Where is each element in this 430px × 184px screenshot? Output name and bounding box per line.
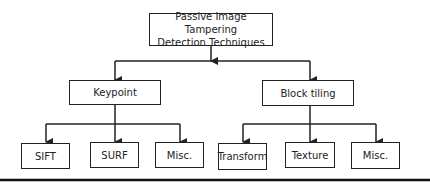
transform-node: Transform bbox=[218, 143, 267, 170]
root-label-line1: Passive Image Tampering bbox=[150, 10, 272, 36]
keypoint-label: Keypoint bbox=[93, 86, 137, 99]
root-node: Passive Image Tampering Detection Techni… bbox=[149, 13, 273, 46]
taxonomy-diagram: Passive Image Tampering Detection Techni… bbox=[0, 0, 430, 184]
keypoint-node: Keypoint bbox=[69, 80, 161, 105]
block-tiling-node: Block tiling bbox=[262, 80, 354, 106]
misc-block-tiling-node: Misc. bbox=[351, 142, 400, 169]
misc-keypoint-label: Misc. bbox=[167, 149, 192, 162]
sift-node: SIFT bbox=[21, 143, 70, 169]
misc-block-tiling-label: Misc. bbox=[363, 149, 388, 162]
texture-node: Texture bbox=[285, 142, 335, 168]
surf-node: SURF bbox=[90, 142, 139, 168]
surf-label: SURF bbox=[101, 149, 127, 162]
root-label-line2: Detection Techniques bbox=[157, 36, 264, 49]
block-tiling-label: Block tiling bbox=[280, 87, 335, 100]
transform-label: Transform bbox=[218, 150, 268, 163]
texture-label: Texture bbox=[292, 149, 329, 162]
misc-keypoint-node: Misc. bbox=[155, 142, 204, 168]
sift-label: SIFT bbox=[35, 150, 56, 163]
